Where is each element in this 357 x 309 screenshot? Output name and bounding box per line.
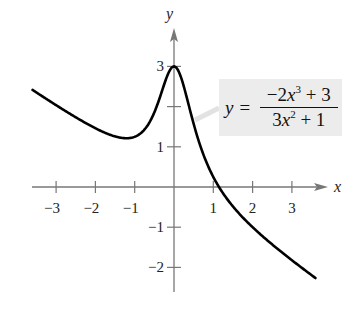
fraction-bar <box>260 107 338 108</box>
y-tick-label: −1 <box>148 219 164 235</box>
x-tick-label: −1 <box>123 200 139 216</box>
equation-fraction: −2x3 + 3 3x2 + 1 <box>260 84 338 131</box>
x-tick-label: 3 <box>288 200 296 216</box>
x-tick-label: 1 <box>210 200 218 216</box>
equation-label: y = −2x3 + 3 3x2 + 1 <box>219 79 342 136</box>
y-tick-label: 3 <box>157 58 165 74</box>
x-tick-label: −2 <box>83 200 99 216</box>
equation-pointer <box>195 108 219 120</box>
x-axis-label: x <box>333 178 341 195</box>
x-axis: −3−2−1123 x <box>32 178 341 216</box>
x-tick-label: −3 <box>44 200 60 216</box>
y-tick-label: 1 <box>157 139 165 155</box>
y-tick-label: −2 <box>148 259 164 275</box>
equation-lhs: y = <box>225 97 256 119</box>
y-axis-label: y <box>164 5 174 23</box>
equation-denominator: 3x2 + 1 <box>272 109 325 131</box>
y-axis: −2−113 y <box>148 5 181 292</box>
equation-numerator: −2x3 + 3 <box>267 84 331 106</box>
x-tick-label: 2 <box>249 200 257 216</box>
function-graph: −3−2−1123 x −2−113 y <box>0 0 357 309</box>
